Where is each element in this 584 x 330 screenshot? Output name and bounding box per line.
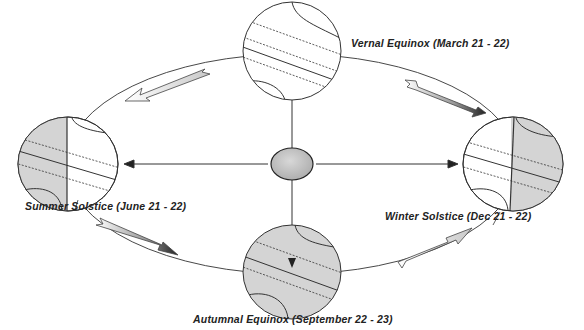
label-vernal-equinox: Vernal Equinox (March 21 - 22): [351, 37, 510, 49]
orbit-diagram: [0, 0, 584, 330]
label-autumnal-equinox: Autumnal Equinox (September 22 - 23): [193, 313, 393, 325]
earth-vernal: [240, 2, 345, 100]
earth-autumnal: [240, 225, 345, 319]
orbit-arrow-bottom-left: [96, 218, 178, 255]
earth-winter: [460, 115, 566, 215]
orbit-arrow-bottom-right: [398, 228, 472, 268]
sun: [271, 148, 313, 180]
label-summer-solstice: Summer Solstice (June 21 - 22): [25, 200, 186, 212]
label-winter-solstice: Winter Solstice (Dec 21 - 22): [385, 210, 531, 222]
orbit-arrow-top-left: [125, 69, 210, 101]
